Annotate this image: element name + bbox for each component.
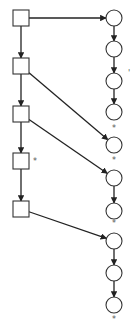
square-s4-star-mark: *	[33, 157, 37, 166]
circle-node-c10	[106, 297, 122, 313]
square-node-s4	[13, 153, 29, 169]
circle-c7-star-mark: *	[112, 219, 116, 228]
circle-node-c4	[106, 104, 122, 120]
circle-node-c9	[106, 265, 122, 281]
graph-diagram: * * * * * '	[0, 0, 132, 327]
circle-c3-tick-mark: '	[128, 69, 130, 78]
edge-s2-c5	[29, 73, 108, 140]
circle-c5-star-mark: *	[112, 156, 116, 165]
edge-s5-c8	[29, 212, 106, 239]
circle-c4-star-mark: *	[112, 124, 116, 133]
square-node-s1	[13, 10, 29, 26]
circle-node-c7	[106, 203, 122, 219]
nodes	[13, 10, 122, 313]
circle-node-c5	[106, 137, 122, 153]
circle-node-c6	[106, 170, 122, 186]
square-node-s3	[13, 106, 29, 122]
edge-s3-c6	[29, 120, 107, 174]
circle-node-c1	[106, 10, 122, 26]
circle-node-c8	[106, 233, 122, 249]
circle-c10-star-mark: *	[112, 315, 116, 324]
square-node-s5	[13, 201, 29, 217]
square-node-s2	[13, 58, 29, 74]
circle-node-c2	[106, 41, 122, 57]
circle-node-c3	[106, 73, 122, 89]
